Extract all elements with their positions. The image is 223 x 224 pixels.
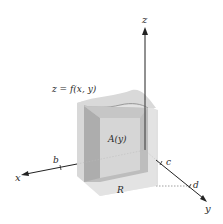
z-axis-label: z (141, 14, 148, 25)
x-axis-visible (26, 164, 77, 174)
iterated-integral-diagram: z x b y c d z = f(x, y) A(y) R (0, 0, 223, 224)
region-label: R (116, 185, 124, 195)
y-axis-label: y (204, 203, 211, 214)
y-axis-visible (156, 160, 203, 198)
surface-label: z = f(x, y) (51, 84, 97, 94)
b-tick-label: b (53, 155, 59, 165)
x-axis-arrowhead (21, 171, 29, 176)
cross-section-bevel-left (84, 106, 100, 182)
z-axis-arrowhead (142, 27, 148, 35)
d-tick-label: d (193, 180, 199, 190)
c-tick-label: c (166, 157, 171, 167)
b-tick (60, 165, 61, 170)
x-axis-label: x (15, 172, 21, 183)
left-outer-panel (77, 101, 84, 182)
cross-section-label: A(y) (107, 134, 127, 144)
cross-section-face (100, 118, 140, 178)
